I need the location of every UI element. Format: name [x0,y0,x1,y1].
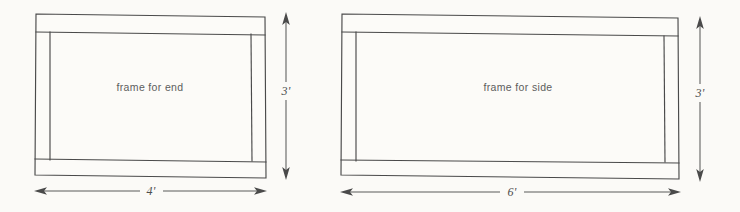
side-frame-label: frame for side [483,81,552,93]
panel-side-frame: frame for side 3' 6' [340,14,705,199]
end-frame-height-dimension: 3' [281,12,291,180]
end-frame-width-dimension: 4' [34,184,267,198]
panel-end-frame: frame for end 3' 4' [34,12,291,198]
frame-elevations-diagram: frame for end 3' 4' [0,0,740,212]
side-width-dim-label: 6' [508,185,517,199]
side-frame-width-dimension: 6' [340,185,681,199]
side-frame-height-dimension: 3' [695,16,705,182]
side-frame-body [341,14,679,179]
end-width-dim-label: 4' [147,184,156,198]
end-height-dim-label: 3' [281,84,291,98]
diagram-canvas: frame for end 3' 4' [0,0,740,212]
side-height-dim-label: 3' [695,86,705,100]
end-frame-body [35,14,266,178]
end-frame-label: frame for end [117,81,184,93]
